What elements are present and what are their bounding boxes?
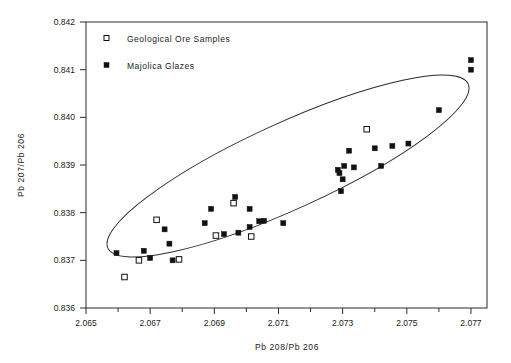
legend: Geological Ore Samples Majolica Glazes [104, 34, 230, 71]
y-tick-label: 0.840 [54, 112, 76, 122]
figure-container: 0.8360.8370.8380.8390.8400.8410.842 2.06… [0, 0, 511, 363]
data-point-ore-sample [248, 234, 254, 240]
y-tick-label: 0.838 [54, 208, 76, 218]
confidence-ellipse [90, 45, 486, 287]
x-tick-label: 2.075 [396, 318, 418, 328]
x-tick-label: 2.065 [75, 318, 97, 328]
data-point-majolica-glaze [114, 251, 119, 256]
data-point-majolica-glaze [406, 141, 411, 146]
x-tick-label: 2.073 [332, 318, 354, 328]
legend-marker-filled-square [104, 63, 109, 68]
data-point-ore-sample [364, 127, 370, 133]
data-point-ore-sample [231, 200, 237, 206]
x-axis-ticks: 2.0652.0672.0692.0712.0732.0752.077 [75, 308, 482, 328]
legend-marker-open-square [104, 36, 109, 41]
legend-label-majolica-glazes: Majolica Glazes [127, 61, 195, 71]
data-point-majolica-glaze [141, 248, 146, 253]
data-point-ore-sample [176, 257, 182, 263]
data-point-majolica-glaze [281, 221, 286, 226]
data-point-ore-sample [154, 217, 160, 223]
data-point-majolica-glaze [340, 177, 345, 182]
data-point-majolica-glaze [167, 241, 172, 246]
data-point-majolica-glaze [202, 221, 207, 226]
data-point-majolica-glaze [236, 230, 241, 235]
x-tick-label: 2.069 [204, 318, 226, 328]
data-point-majolica-glaze [247, 224, 252, 229]
data-point-majolica-glaze [233, 194, 238, 199]
scatter-plot: 0.8360.8370.8380.8390.8400.8410.842 2.06… [0, 0, 511, 363]
y-tick-label: 0.841 [54, 65, 76, 75]
data-point-majolica-glaze [372, 146, 377, 151]
y-axis-ticks: 0.8360.8370.8380.8390.8400.8410.842 [54, 17, 86, 313]
y-tick-label: 0.836 [54, 303, 76, 313]
data-point-majolica-glaze [209, 206, 214, 211]
data-point-majolica-glaze [170, 258, 175, 263]
data-point-majolica-glaze [257, 219, 262, 224]
data-point-ore-sample [136, 258, 142, 264]
data-point-ore-sample [213, 233, 219, 239]
data-points-layer [114, 58, 473, 280]
data-point-majolica-glaze [436, 108, 441, 113]
data-point-majolica-glaze [351, 165, 356, 170]
data-point-majolica-glaze [339, 189, 344, 194]
data-point-majolica-glaze [468, 67, 473, 72]
data-point-majolica-glaze [162, 227, 167, 232]
x-tick-label: 2.067 [140, 318, 162, 328]
data-point-majolica-glaze [468, 58, 473, 63]
y-tick-label: 0.842 [54, 17, 76, 27]
x-tick-label: 2.077 [460, 318, 482, 328]
data-point-majolica-glaze [247, 206, 252, 211]
x-tick-label: 2.071 [268, 318, 290, 328]
legend-label-ore-samples: Geological Ore Samples [127, 34, 230, 44]
data-point-majolica-glaze [379, 163, 384, 168]
x-axis-title: Pb 208/Pb 206 [255, 342, 319, 352]
y-tick-label: 0.839 [54, 160, 76, 170]
data-point-majolica-glaze [335, 167, 340, 172]
data-point-ore-sample [122, 274, 128, 280]
data-point-majolica-glaze [221, 232, 226, 237]
y-tick-label: 0.837 [54, 255, 76, 265]
data-point-majolica-glaze [262, 218, 267, 223]
data-point-majolica-glaze [342, 163, 347, 168]
data-point-majolica-glaze [390, 143, 395, 148]
y-axis-title: Pb 207/Pb 206 [16, 133, 26, 197]
data-point-majolica-glaze [347, 148, 352, 153]
data-point-majolica-glaze [148, 255, 153, 260]
